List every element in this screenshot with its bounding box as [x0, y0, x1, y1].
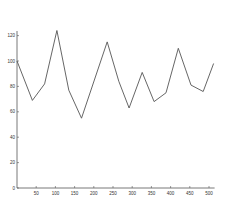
y-tick-label: 40 — [10, 135, 16, 140]
x-tick-label: 50 — [34, 191, 40, 196]
x-tick-label: 350 — [148, 191, 156, 196]
x-tick-label: 450 — [186, 191, 194, 196]
x-tick-label: 100 — [52, 191, 60, 196]
x-tick-label: 150 — [71, 191, 79, 196]
y-tick-label: 80 — [10, 84, 16, 89]
y-tick-label: 20 — [10, 160, 16, 165]
x-tick-label: 400 — [167, 191, 175, 196]
y-tick-label: 0 — [12, 186, 15, 191]
y-tick-label: 100 — [7, 59, 15, 64]
x-axis-ticks: 50100150200250300350400450500 — [34, 186, 214, 196]
series-line — [17, 31, 214, 119]
x-tick-label: 200 — [90, 191, 98, 196]
x-tick-label: 250 — [109, 191, 117, 196]
x-tick-label: 300 — [128, 191, 136, 196]
axes — [17, 31, 215, 188]
x-tick-label: 500 — [205, 191, 213, 196]
data-series — [17, 31, 214, 119]
line-chart: 020406080100120 501001502002503003504004… — [0, 0, 227, 205]
y-tick-label: 60 — [10, 109, 16, 114]
y-tick-label: 120 — [7, 33, 15, 38]
